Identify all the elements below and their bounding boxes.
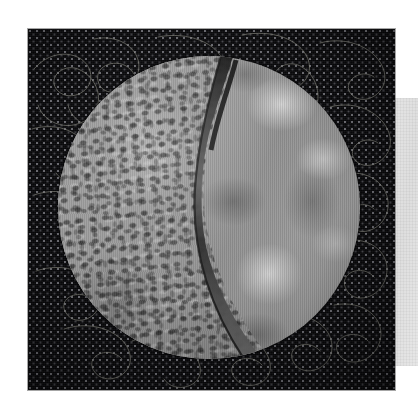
image-canvas: Square dark navy dotted quilt block with… — [0, 0, 418, 414]
curved-seam — [58, 56, 360, 359]
edge-panel — [394, 98, 418, 366]
quilt-block — [28, 29, 395, 390]
circle-applique — [58, 56, 360, 359]
image-caption: Square dark navy dotted quilt block with… — [0, 0, 1, 1]
